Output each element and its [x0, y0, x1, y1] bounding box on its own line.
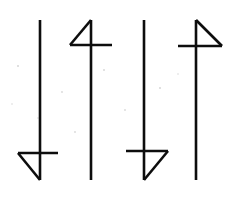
- paper-speck: [159, 87, 161, 89]
- paper-speck: [74, 131, 76, 133]
- paper-speck: [177, 73, 179, 75]
- glyph-figures-svg: [0, 0, 225, 200]
- paper-speck: [61, 91, 63, 93]
- paper-speck: [37, 117, 39, 119]
- paper-speck: [103, 69, 105, 71]
- paper-speck: [11, 103, 13, 105]
- paper-speck: [124, 109, 126, 111]
- drawing-canvas: [0, 0, 225, 200]
- paper-speck: [17, 65, 19, 67]
- canvas-background: [0, 0, 225, 200]
